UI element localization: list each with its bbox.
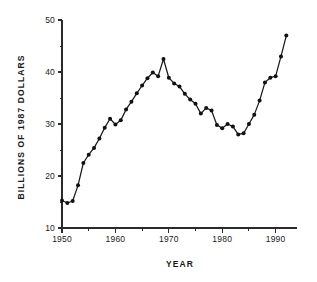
data-point-marker [124, 107, 128, 111]
data-point-marker [60, 198, 64, 202]
data-point-marker [151, 71, 155, 75]
data-point-marker [220, 126, 224, 130]
axis-frame [62, 20, 297, 228]
data-point-marker [76, 183, 80, 187]
data-point-marker [215, 123, 219, 127]
data-point-marker [92, 146, 96, 150]
data-point-marker [129, 100, 133, 104]
x-axis-tick-label: 1970 [159, 234, 179, 244]
line-chart-plot: 1020304050 19501960197019801990 BILLIONS… [0, 0, 317, 282]
data-point-marker [183, 92, 187, 96]
x-axis-tick-label: 1960 [106, 234, 126, 244]
data-point-marker [103, 126, 107, 130]
data-point-marker [167, 76, 171, 80]
data-point-marker [140, 84, 144, 88]
data-point-marker [194, 102, 198, 106]
data-point-marker [263, 80, 267, 84]
data-point-marker [65, 201, 69, 205]
data-point-marker [268, 76, 272, 80]
data-point-marker [97, 137, 101, 141]
x-axis-tick-label: 1980 [212, 234, 232, 244]
data-point-marker [71, 199, 75, 203]
data-point-marker [172, 81, 176, 85]
data-point-marker [236, 132, 240, 136]
data-point-marker [279, 54, 283, 58]
data-point-marker [81, 161, 85, 165]
data-series-line [62, 36, 286, 203]
y-axis-tick-label: 10 [45, 223, 55, 233]
data-point-marker [87, 153, 91, 157]
data-point-marker [252, 113, 256, 117]
tick-mark-group [58, 20, 276, 233]
data-point-marker [284, 34, 288, 38]
data-point-marker-group [60, 34, 288, 205]
data-point-marker [274, 74, 278, 78]
y-axis-tick-label-group: 1020304050 [45, 15, 55, 233]
y-axis-tick-label: 20 [45, 171, 55, 181]
data-point-marker [119, 118, 123, 122]
y-axis-title: BILLIONS OF 1987 DOLLARS [16, 55, 26, 200]
data-point-marker [108, 117, 112, 121]
data-point-marker [113, 123, 117, 127]
data-point-marker [178, 85, 182, 89]
data-point-marker [188, 98, 192, 102]
data-point-marker [145, 76, 149, 80]
data-point-marker [161, 57, 165, 61]
data-point-marker [156, 74, 160, 78]
data-point-marker [135, 91, 139, 95]
y-axis-tick-label: 40 [45, 67, 55, 77]
y-axis-tick-label: 50 [45, 15, 55, 25]
data-point-marker [231, 125, 235, 129]
x-axis-tick-label-group: 19501960197019801990 [52, 234, 285, 244]
data-point-marker [199, 112, 203, 116]
data-point-marker [247, 122, 251, 126]
data-point-marker [258, 99, 262, 103]
data-point-marker [242, 131, 246, 135]
x-axis-tick-label: 1990 [266, 234, 286, 244]
x-axis-title: YEAR [166, 259, 194, 269]
data-point-marker [210, 108, 214, 112]
y-axis-tick-label: 30 [45, 119, 55, 129]
chart-container: 1020304050 19501960197019801990 BILLIONS… [0, 0, 317, 282]
data-point-marker [204, 106, 208, 110]
data-point-marker [226, 122, 230, 126]
x-axis-tick-label: 1950 [52, 234, 72, 244]
